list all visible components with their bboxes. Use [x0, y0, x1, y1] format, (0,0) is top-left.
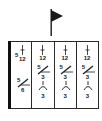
fork-icon — [83, 81, 93, 91]
top-number: 12 — [62, 55, 69, 61]
bottom-number: 3 — [64, 93, 67, 99]
fork-icon — [61, 81, 71, 91]
mid-lower-number: 3 — [86, 74, 89, 80]
flag-icon — [49, 9, 65, 36]
mid-lower-number: 3 — [64, 74, 67, 80]
notation-column-3: 12 5 3 3 — [54, 42, 76, 108]
mid-lower-number: 3 — [41, 74, 44, 80]
notation-column-4: 12 5 3 3 — [76, 42, 98, 108]
tie-mark-icon — [20, 45, 25, 55]
tie-mark-icon — [40, 45, 45, 55]
top-number: 12 — [19, 56, 26, 62]
top-number: 12 — [39, 55, 46, 61]
notation-column-2: 12 5 3 3 — [31, 42, 53, 108]
bottom-number: 3 — [41, 93, 44, 99]
tie-mark-icon — [85, 45, 90, 55]
fork-icon — [38, 81, 48, 91]
bottom-number: 3 — [86, 93, 89, 99]
notation-column-1: 5 12 5 6 — [9, 42, 31, 108]
tie-mark-icon — [63, 45, 68, 55]
notation-box: 5 12 5 6 12 5 3 3 12 5 3 — [8, 41, 99, 109]
top-number: 12 — [84, 55, 91, 61]
mid-lower-number: 6 — [21, 87, 24, 93]
left-thick-border — [8, 41, 11, 109]
top-prefix: 5 — [15, 52, 18, 58]
